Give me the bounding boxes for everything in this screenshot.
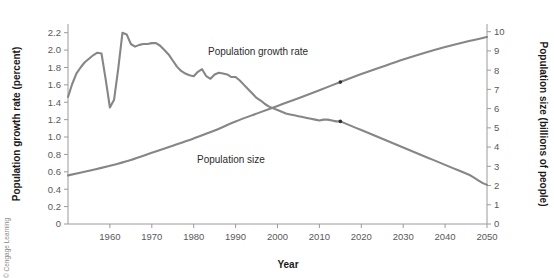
y-tick-label: 0 [56,218,61,229]
x-tick-label: 2020 [351,231,372,242]
y2-axis-title: Population size (billions of people) [538,42,549,207]
y2-tick-label: 6 [494,103,499,114]
series-label-population-size: Population size [197,154,265,165]
x-tick-label: 2030 [393,231,414,242]
y2-tick-label: 2 [494,180,499,191]
y-tick-label: 2.0 [48,44,61,55]
x-tick-label: 1970 [141,231,162,242]
y-tick-label: 0.8 [48,149,61,160]
y2-tick-label: 8 [494,65,499,76]
series-label-population-growth-rate: Population growth rate [208,46,309,57]
copyright-credit: © Cengage Learning [3,218,11,278]
y-axis-title: Population growth rate (percent) [11,47,22,201]
y2-tick-label: 5 [494,122,499,133]
x-tick-label: 1960 [99,231,120,242]
series-line-population-size [68,37,487,175]
x-tick-label: 1990 [225,231,246,242]
y-tick-label: 1.8 [48,62,61,73]
y2-tick-label: 7 [494,84,499,95]
y-tick-label: 0.6 [48,166,61,177]
y-tick-label: 1.6 [48,79,61,90]
x-tick-label: 2050 [476,231,497,242]
y2-tick-label: 0 [494,218,499,229]
tick-labels: 00.20.40.60.81.01.21.41.61.82.02.2012345… [48,26,505,242]
chart-figure: 00.20.40.60.81.01.21.41.61.82.02.2012345… [0,0,554,278]
current-year-marker [339,120,343,124]
y-tick-label: 0.2 [48,201,61,212]
y-tick-label: 1.0 [48,131,61,142]
y2-tick-label: 9 [494,45,499,56]
y-tick-label: 0.4 [48,184,61,195]
population-chart: 00.20.40.60.81.01.21.41.61.82.02.2012345… [0,0,554,278]
y-tick-label: 1.2 [48,114,61,125]
y2-tick-label: 1 [494,199,499,210]
y-tick-label: 2.2 [48,27,61,38]
tick-marks [64,32,491,228]
y2-tick-label: 10 [494,26,505,37]
y2-tick-label: 3 [494,161,499,172]
x-tick-label: 2010 [309,231,330,242]
x-tick-label: 1980 [183,231,204,242]
y2-tick-label: 4 [494,141,499,152]
x-tick-label: 2040 [435,231,456,242]
x-axis-title: Year [277,259,298,270]
x-tick-label: 2000 [267,231,288,242]
current-year-marker [339,80,343,84]
y-tick-label: 1.4 [48,97,61,108]
data-markers [339,80,343,123]
